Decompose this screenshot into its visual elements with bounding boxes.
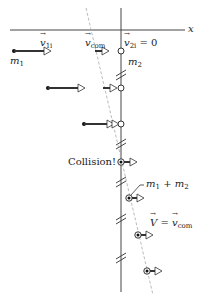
collision-label: Collision! — [68, 157, 116, 167]
v2i-label: v2i = 0 — [124, 38, 157, 50]
x-axis-label: x — [188, 24, 194, 34]
v1i-label: v1i — [40, 38, 52, 50]
vcom-label: vcom — [85, 38, 105, 50]
combined-pointer — [131, 185, 140, 195]
combined-mass-label: m1 + m2 — [146, 179, 189, 191]
m1-label: m1 — [10, 56, 24, 68]
final-velocity-label: V = vcom — [150, 218, 192, 230]
m2-label: m2 — [128, 57, 142, 69]
